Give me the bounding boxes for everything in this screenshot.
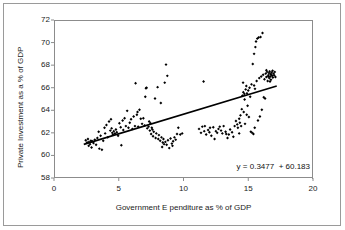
data-point <box>247 89 250 92</box>
data-point <box>245 113 248 116</box>
x-axis-ticks <box>54 178 313 181</box>
data-point <box>173 136 176 139</box>
data-point <box>138 108 141 111</box>
data-point <box>258 115 261 118</box>
data-point <box>263 78 266 81</box>
data-point <box>254 46 257 49</box>
data-point <box>217 127 220 130</box>
data-point <box>232 135 235 138</box>
data-point <box>229 128 232 131</box>
data-point <box>98 147 101 150</box>
data-point <box>227 133 230 136</box>
data-point <box>102 139 105 142</box>
data-point <box>157 138 160 141</box>
data-point <box>166 74 169 77</box>
y-tick-label: 64 <box>30 106 50 114</box>
data-point <box>225 133 228 136</box>
data-point <box>244 88 247 91</box>
data-point <box>105 124 108 127</box>
y-tick-label: 60 <box>30 151 50 159</box>
data-point <box>109 129 112 132</box>
data-point <box>261 32 264 35</box>
data-point <box>97 130 100 133</box>
data-point <box>240 108 243 111</box>
x-axis-title: Government E penditure as % of GDP <box>54 203 313 212</box>
data-point <box>233 125 236 128</box>
x-tick-label: 20 <box>309 185 318 193</box>
x-tick-label: 5 <box>117 185 121 193</box>
data-point <box>170 142 173 145</box>
data-point <box>110 118 113 121</box>
data-point <box>203 125 206 128</box>
data-point <box>200 131 203 134</box>
data-point <box>104 132 107 135</box>
data-point <box>159 102 162 105</box>
data-point <box>177 126 180 129</box>
data-point <box>251 63 254 66</box>
data-point <box>208 131 211 134</box>
x-tick-label: 15 <box>244 185 253 193</box>
data-point <box>154 97 157 100</box>
y-axis-ticks <box>51 20 54 178</box>
data-point <box>240 125 243 128</box>
data-point <box>244 122 247 125</box>
chart-page: 5860626466687072 05101520 Government E p… <box>0 0 345 230</box>
data-point <box>167 139 170 142</box>
data-point <box>238 117 241 120</box>
data-point <box>248 86 251 89</box>
data-point <box>156 86 159 89</box>
data-point <box>128 121 131 124</box>
data-point <box>123 117 126 120</box>
data-point <box>246 104 249 107</box>
y-tick-label: 72 <box>30 16 50 24</box>
data-point <box>234 120 237 123</box>
data-point <box>249 95 252 98</box>
data-point <box>124 125 127 128</box>
data-point <box>126 109 129 112</box>
data-point <box>202 80 205 83</box>
data-point <box>218 125 221 128</box>
data-point <box>110 127 113 130</box>
data-point <box>122 129 125 132</box>
x-tick-label: 10 <box>179 185 188 193</box>
data-point <box>169 137 172 140</box>
data-point <box>253 126 256 129</box>
y-tick-label: 70 <box>30 39 50 47</box>
data-point <box>119 126 122 129</box>
y-tick-label: 62 <box>30 129 50 137</box>
data-point <box>198 127 201 130</box>
data-point <box>255 79 258 82</box>
data-point <box>127 126 130 129</box>
data-point <box>165 143 168 146</box>
data-point <box>161 146 164 149</box>
y-tick-label: 68 <box>30 61 50 69</box>
data-point <box>162 138 165 141</box>
data-point <box>221 132 224 135</box>
data-point <box>164 140 167 143</box>
data-point <box>130 118 133 121</box>
data-point <box>139 117 142 120</box>
data-point <box>159 139 162 142</box>
y-axis-title: Private Investment as a % of GDP <box>16 47 25 168</box>
data-point <box>254 87 257 90</box>
data-point <box>108 120 111 123</box>
data-point <box>260 75 263 78</box>
data-point <box>238 121 241 124</box>
data-point <box>257 119 260 122</box>
data-point <box>136 111 139 114</box>
data-point <box>260 108 263 111</box>
data-point <box>148 129 151 132</box>
x-tick-label: 0 <box>52 185 56 193</box>
data-point <box>154 136 157 139</box>
data-point <box>242 111 245 114</box>
data-point <box>150 133 153 136</box>
data-point <box>250 83 253 86</box>
data-point <box>258 77 261 80</box>
data-point <box>253 52 256 55</box>
data-point <box>157 134 160 137</box>
data-point <box>245 85 248 88</box>
data-point <box>243 98 246 101</box>
data-point <box>212 126 215 129</box>
data-point <box>165 63 168 66</box>
data-point <box>121 119 124 122</box>
